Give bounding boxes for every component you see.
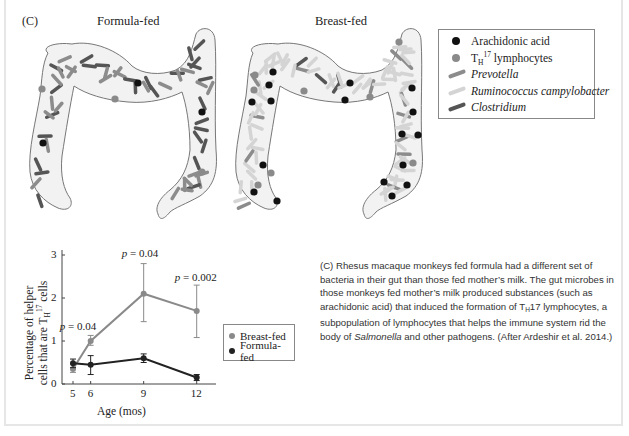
x-tick-label: 12 bbox=[191, 387, 202, 399]
x-axis-label: Age (mos) bbox=[97, 405, 146, 417]
p-value-annotation: p = 0.002 bbox=[175, 271, 217, 283]
chart-legend: Breast-fed Formula-fed bbox=[223, 324, 295, 361]
p-value-annotation: p = 0.04 bbox=[60, 320, 96, 332]
y-axis-label: Percentage of helper cells that are TH17… bbox=[22, 263, 56, 403]
x-tick-label: 9 bbox=[141, 387, 147, 399]
legend-formula-fed: Formula-fed bbox=[229, 343, 294, 358]
y-tick-label: 3 bbox=[51, 248, 57, 260]
line-chart bbox=[0, 0, 629, 436]
breast-fed-dot-icon bbox=[229, 333, 235, 339]
figure-caption: (C) Rhesus macaque monkeys fed formula h… bbox=[320, 259, 620, 344]
p-value-annotation: p = 0.04 bbox=[122, 247, 158, 259]
formula-fed-dot-icon bbox=[229, 348, 235, 354]
x-tick-label: 5 bbox=[70, 387, 76, 399]
x-tick-label: 6 bbox=[88, 387, 94, 399]
